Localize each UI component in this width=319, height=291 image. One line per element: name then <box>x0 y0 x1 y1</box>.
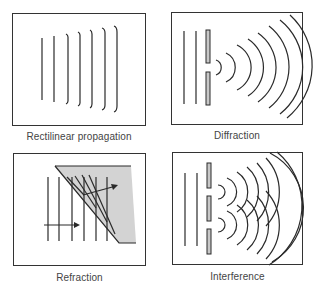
barrier-top <box>207 163 211 188</box>
barrier-middle <box>207 196 211 221</box>
interference-label: Interference <box>172 271 303 282</box>
interference-waves <box>0 0 319 291</box>
barrier-bottom <box>207 229 211 254</box>
